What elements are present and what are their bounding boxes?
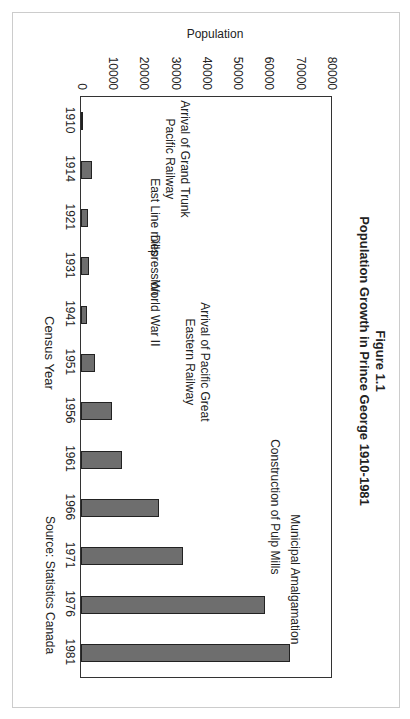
annotation: Municipal Amalgamation (287, 509, 302, 649)
y-tick: 20000 (138, 30, 152, 90)
annotation: Arrival of Pacific Great Eastern Railway (182, 292, 212, 432)
chart-title: Population Growth in Prince George 1910-… (357, 16, 372, 706)
x-tick: 1921 (63, 197, 77, 237)
figure-label: Figure 1.1 (373, 16, 388, 706)
x-tick: 1981 (63, 632, 77, 672)
x-tick: 1914 (63, 149, 77, 189)
bar-1961 (81, 451, 122, 469)
y-tick: 50000 (231, 30, 245, 90)
y-tick: 10000 (106, 30, 120, 90)
x-tick: 1971 (63, 535, 77, 575)
y-tick: 60000 (263, 30, 277, 90)
bar-1971 (81, 547, 183, 565)
x-tick: 1910 (63, 100, 77, 140)
x-tick: 1966 (63, 487, 77, 527)
source-note: Source: Statistics Canada (43, 516, 57, 654)
bar-1951 (81, 354, 95, 372)
bar-1966 (81, 499, 159, 517)
rotated-chart: Figure 1.1 Population Growth in Prince G… (12, 16, 392, 706)
y-tick: 80000 (325, 30, 339, 90)
x-tick: 1941 (63, 294, 77, 334)
y-tick: 0 (75, 30, 89, 90)
bar-1910 (81, 112, 83, 130)
x-tick: 1956 (63, 390, 77, 430)
bar-1921 (81, 209, 88, 227)
bar-1941 (81, 306, 87, 324)
bar-1956 (81, 402, 112, 420)
annotation: Construction of Pulp Mills (267, 437, 282, 577)
bar-1914 (81, 161, 92, 179)
y-tick: 40000 (200, 30, 214, 90)
y-tick: 30000 (169, 30, 183, 90)
annotation: World War II (147, 244, 162, 384)
bar-1976 (81, 596, 265, 614)
x-axis-label: Census Year (42, 316, 57, 390)
bar-1981 (81, 644, 290, 662)
bar-1931 (81, 257, 89, 275)
x-tick: 1961 (63, 439, 77, 479)
x-tick: 1976 (63, 584, 77, 624)
y-tick: 70000 (294, 30, 308, 90)
x-tick: 1931 (63, 245, 77, 285)
x-tick: 1951 (63, 342, 77, 382)
annotation: Arrival of Grand Trunk Pacific Railway (162, 89, 192, 229)
